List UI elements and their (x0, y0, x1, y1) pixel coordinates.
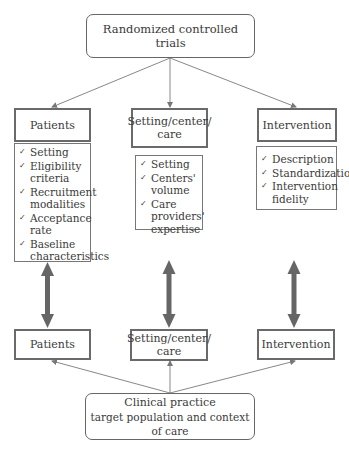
practice-intervention-box: Intervention (257, 329, 335, 360)
arrow-bottom-to-intervention (170, 361, 295, 393)
double-arrow-patients (41, 262, 54, 328)
practice-setting-box: Setting/center/ care (130, 329, 208, 361)
practice-patients-box: Patients (14, 329, 91, 360)
list-item: ✓Acceptance rate (19, 212, 88, 237)
check-icon: ✓ (19, 238, 26, 251)
check-icon: ✓ (261, 180, 268, 193)
check-icon: ✓ (19, 212, 26, 225)
clinical-practice-sublabel: target population and context of care (86, 410, 254, 438)
check-icon: ✓ (261, 153, 268, 166)
list-item: ✓Care providers' expertise (140, 198, 200, 236)
arrow-bottom-to-patients (52, 361, 170, 393)
rct-patients-header: Patients (14, 108, 91, 142)
list-item: ✓Setting (19, 146, 88, 159)
patients-criteria-list: ✓Setting ✓Eligibility criteria ✓Recruitm… (14, 143, 91, 262)
check-icon: ✓ (140, 158, 147, 171)
check-icon: ✓ (140, 198, 147, 211)
list-item: ✓Centers' volume (140, 172, 200, 197)
check-icon: ✓ (261, 167, 268, 180)
list-item: ✓Eligibility criteria (19, 160, 88, 185)
check-icon: ✓ (19, 186, 26, 199)
rct-intervention-header: Intervention (257, 108, 337, 142)
check-icon: ✓ (19, 146, 26, 159)
clinical-practice-label: Clinical practice (124, 396, 215, 410)
rct-setting-header: Setting/center/ care (131, 108, 208, 148)
list-item: ✓Recruitment modalities (19, 186, 88, 211)
rct-box: Randomized controlled trials (86, 14, 255, 58)
check-icon: ✓ (140, 172, 147, 185)
rct-label: Randomized controlled trials (87, 22, 254, 50)
list-item: ✓Standardization (261, 167, 334, 180)
clinical-practice-box: Clinical practice target population and … (85, 393, 255, 440)
check-icon: ✓ (19, 160, 26, 173)
double-arrow-setting (163, 260, 176, 328)
list-item: ✓Baseline characteristics (19, 238, 88, 263)
list-item: ✓Setting (140, 158, 200, 171)
double-arrow-intervention (288, 260, 301, 328)
arrow-top-to-patients (52, 58, 170, 107)
setting-criteria-list: ✓Setting ✓Centers' volume ✓Care provider… (135, 155, 203, 230)
list-item: ✓Description (261, 153, 334, 166)
list-item: ✓Intervention fidelity (261, 180, 334, 205)
arrow-top-to-intervention (170, 58, 296, 107)
intervention-criteria-list: ✓Description ✓Standardization ✓Intervent… (256, 146, 337, 210)
